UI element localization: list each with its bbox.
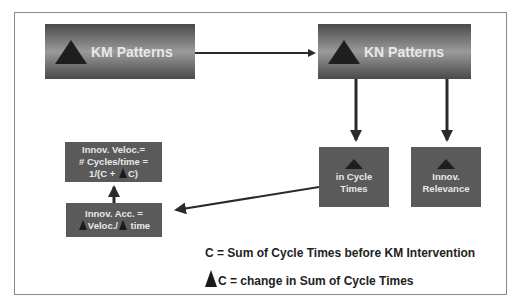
innov-relevance-line1: Innov.	[432, 171, 459, 183]
innov-relevance-line2: Relevance	[422, 183, 469, 195]
legend-c-definition: C = Sum of Cycle Times before KM Interve…	[205, 246, 475, 260]
cycle-times-line1: in Cycle	[336, 171, 372, 183]
kn-patterns-node: KN Patterns	[318, 24, 471, 79]
delta-triangle-icon	[205, 270, 217, 287]
delta-triangle-icon	[79, 220, 87, 230]
innov-acceleration-node: Innov. Acc. = Veloc./ time	[66, 203, 162, 237]
delta-triangle-icon	[328, 40, 360, 64]
veloc-text: Veloc./	[88, 220, 118, 231]
innov-acceleration-line1: Innov. Acc. =	[85, 208, 143, 220]
cycle-times-node: in Cycle Times	[319, 147, 389, 207]
innov-velocity-line3: 1/(C + C)	[89, 168, 138, 180]
delta-triangle-icon	[119, 168, 127, 178]
km-patterns-node: KM Patterns	[45, 24, 195, 79]
innov-velocity-line2: # Cycles/time =	[79, 156, 148, 168]
legend-line-1: C = Sum of Cycle Times before KM Interve…	[205, 246, 475, 260]
arrow-cycle-to-acc	[176, 187, 319, 210]
formula-suffix: C)	[128, 168, 138, 179]
time-text: time	[128, 220, 150, 231]
formula-prefix: 1/(C +	[89, 168, 118, 179]
delta-triangle-icon	[437, 159, 455, 169]
legend-line-2: C = change in Sum of Cycle Times	[205, 270, 414, 288]
legend-delta-c-definition: C = change in Sum of Cycle Times	[218, 274, 414, 288]
innov-velocity-node: Innov. Veloc.= # Cycles/time = 1/(C + C)	[65, 142, 162, 182]
kn-patterns-label: KN Patterns	[364, 44, 444, 60]
innov-velocity-line1: Innov. Veloc.=	[82, 144, 145, 156]
delta-triangle-icon	[345, 159, 363, 169]
delta-triangle-icon	[119, 220, 127, 230]
delta-triangle-icon	[55, 40, 87, 64]
cycle-times-line2: Times	[340, 183, 367, 195]
innov-relevance-node: Innov. Relevance	[411, 147, 481, 207]
km-patterns-label: KM Patterns	[91, 44, 173, 60]
innov-acceleration-line2: Veloc./ time	[78, 220, 150, 232]
